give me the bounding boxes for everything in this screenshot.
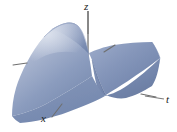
z-axis-label: z <box>84 1 88 12</box>
surface-body <box>12 22 160 123</box>
tick-left-mark <box>13 63 27 65</box>
t-axis-label: t <box>166 94 169 105</box>
surface-plot-figure: z t x <box>0 0 177 132</box>
x-axis-label: x <box>41 113 46 124</box>
surface-plot-canvas <box>0 0 177 132</box>
